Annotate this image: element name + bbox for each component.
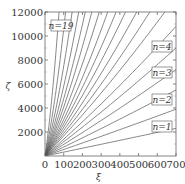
x-tick-label: 100: [54, 159, 73, 170]
x-tick-label: 200: [73, 159, 92, 170]
curve-label: n=3: [152, 68, 171, 78]
curve-n-14: [45, 12, 92, 156]
y-tick-label: 4000: [18, 103, 43, 114]
x-tick-label: 700: [166, 159, 185, 170]
y-tick-label: 10000: [11, 31, 43, 42]
y-tick-label: 2000: [18, 127, 43, 138]
curves: [45, 12, 176, 156]
x-tick-label: 500: [129, 159, 148, 170]
y-tick-label: 6000: [18, 79, 43, 90]
chart: 2000400060008000100001200001002003004005…: [0, 0, 185, 184]
curve-label: n=2: [152, 95, 171, 105]
y-axis-label: ζ: [6, 81, 12, 91]
x-tick-label: 600: [148, 159, 167, 170]
curve-label: n=4: [152, 42, 171, 52]
x-tick-label: 300: [92, 159, 111, 170]
curve-n-12: [45, 12, 108, 156]
curve-label: n=1: [152, 122, 171, 132]
y-tick-label: 8000: [18, 55, 43, 66]
x-axis-label: ξ: [96, 172, 102, 182]
x-tick-label: 0: [42, 159, 48, 170]
curve-label: n=19: [49, 21, 74, 31]
x-tick-label: 400: [110, 159, 129, 170]
y-tick-label: 12000: [11, 7, 43, 18]
